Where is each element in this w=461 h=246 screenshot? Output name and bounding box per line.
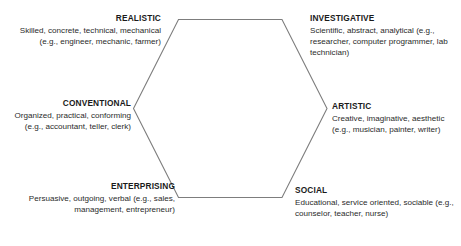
type-description-realistic: Skilled, concrete, technical, mechanical… (8, 25, 161, 47)
type-block-artistic: ARTISTIC Creative, imaginative, aestheti… (332, 101, 461, 135)
type-block-conventional: CONVENTIONAL Organized, practical, confo… (0, 98, 131, 132)
type-block-investigative: INVESTIGATIVE Scientific, abstract, anal… (310, 13, 460, 58)
type-title-social: SOCIAL (295, 185, 461, 196)
type-title-investigative: INVESTIGATIVE (310, 13, 460, 24)
type-title-realistic: REALISTIC (8, 13, 161, 24)
type-description-artistic: Creative, imaginative, aesthetic (e.g., … (332, 113, 461, 135)
type-title-conventional: CONVENTIONAL (0, 98, 131, 109)
type-block-social: SOCIAL Educational, service oriented, so… (295, 185, 461, 219)
type-description-enterprising: Persuasive, outgoing, verbal (e.g., sale… (22, 193, 175, 215)
type-description-conventional: Organized, practical, conforming (e.g., … (0, 110, 131, 132)
hexagon-shape (134, 20, 328, 198)
type-title-enterprising: ENTERPRISING (22, 181, 175, 192)
type-block-realistic: REALISTIC Skilled, concrete, technical, … (8, 13, 161, 47)
type-block-enterprising: ENTERPRISING Persuasive, outgoing, verba… (22, 181, 175, 215)
type-title-artistic: ARTISTIC (332, 101, 461, 112)
type-description-social: Educational, service oriented, sociable … (295, 197, 461, 219)
riasec-hexagon-diagram: REALISTIC Skilled, concrete, technical, … (0, 0, 461, 246)
type-description-investigative: Scientific, abstract, analytical (e.g., … (310, 25, 460, 59)
